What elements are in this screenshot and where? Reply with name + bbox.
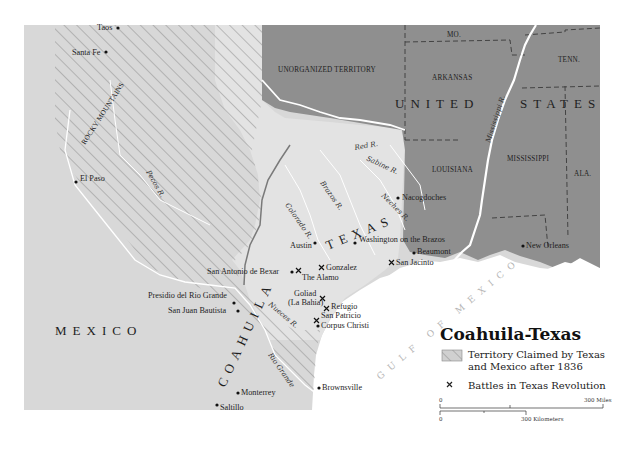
scale-miles-start: 0 [439,397,443,403]
unorganized-territory-label: UNORGANIZED TERRITORY [278,66,377,74]
city-el-paso: El Paso [80,174,105,183]
legend-title: Coahuila-Texas [440,324,581,344]
city-taos: Taos [97,23,112,32]
city-corpus-christi: Corpus Christi [321,321,370,330]
legend-territory-line1: Territory Claimed by Texas [468,349,605,360]
city-gonzalez: Gonzalez [326,263,357,272]
state-mo: MO. [447,31,461,39]
city-san-antonio: San Antonio de Bexar [207,267,279,276]
city-saltillo: Saltillo [220,403,244,412]
city-new-orleans: New Orleans [526,241,569,250]
legend-territory-line2: and Mexico after 1836 [468,361,583,372]
city-san-jacinto: San Jacinto [396,258,434,267]
state-louisiana: LOUISIANA [432,166,474,174]
united-states-label: UNITED [395,96,479,111]
coahuila-texas-map: MEXICO UNITED STATES TEXAS COAHUILA ROCK… [0,0,627,449]
city-santa-fe: Santa Fe [72,48,101,57]
state-ala: ALA. [574,170,591,178]
city-san-patricio: San Patricio [321,311,361,320]
scale-km-start: 0 [439,416,443,422]
city-presidio: Presidio del Rio Grande [148,291,227,300]
legend-battles: Battles in Texas Revolution [468,380,606,391]
states-label: STATES [520,96,601,111]
city-beaumont: Beaumont [417,247,451,256]
city-monterrey: Monterrey [241,388,276,397]
city-goliad: Goliad [294,289,316,298]
city-refugio: Refugio [331,302,357,311]
city-austin: Austin [290,241,312,250]
state-arkansas: ARKANSAS [432,74,472,82]
mexico-label: MEXICO [55,323,142,338]
city-brownsville: Brownsville [322,383,362,392]
scale-km-end: 300 Kilometers [521,416,564,422]
scale-miles-end: 300 Miles [584,397,612,403]
city-washington: Washington on the Brazos [359,235,445,244]
state-tenn: TENN. [558,56,580,64]
city-nacogdoches: Nacogdoches [402,193,446,202]
city-the-alamo: The Alamo [302,273,339,282]
state-mississippi: MISSISSIPPI [507,155,550,163]
city-la-bahia: (La Bahia) [288,298,324,307]
city-san-juan-bautista: San Juan Bautista [168,306,227,315]
